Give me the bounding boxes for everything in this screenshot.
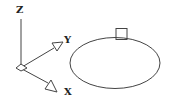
diagram-canvas: Z Y X bbox=[0, 0, 177, 103]
x-axis-label: X bbox=[64, 86, 72, 97]
y-axis-arrowhead-icon bbox=[52, 42, 63, 51]
coordinate-axes: Z Y X bbox=[16, 4, 72, 97]
ellipse-shape[interactable] bbox=[70, 38, 160, 89]
y-axis-line bbox=[22, 48, 54, 67]
z-axis-label: Z bbox=[16, 4, 23, 15]
y-axis-label: Y bbox=[63, 34, 72, 45]
shape-group bbox=[70, 29, 160, 89]
x-axis-line bbox=[22, 69, 48, 83]
